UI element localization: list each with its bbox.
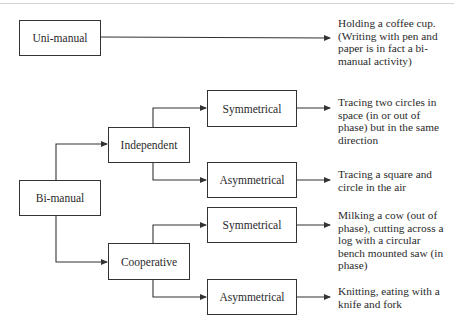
node-label: Cooperative bbox=[121, 256, 177, 268]
node-label: Symmetrical bbox=[223, 103, 282, 115]
node-independent-symmetrical: Symmetrical bbox=[207, 90, 297, 127]
node-cooperative-symmetrical: Symmetrical bbox=[207, 207, 297, 243]
node-bi-manual: Bi-manual bbox=[19, 180, 101, 216]
example-independent-symmetrical: Tracing two circles in space (in or out … bbox=[338, 96, 450, 146]
node-independent: Independent bbox=[108, 127, 190, 163]
node-label: Uni-manual bbox=[33, 32, 88, 44]
example-independent-asymmetrical: Tracing a square and circle in the air bbox=[338, 168, 450, 193]
node-label: Bi-manual bbox=[36, 192, 85, 204]
example-cooperative-asymmetrical: Knitting, eating with a knife and fork bbox=[338, 285, 450, 310]
node-independent-asymmetrical: Asymmetrical bbox=[207, 162, 297, 198]
node-cooperative: Cooperative bbox=[108, 243, 190, 280]
node-label: Asymmetrical bbox=[219, 174, 284, 186]
node-label: Symmetrical bbox=[223, 219, 282, 231]
node-uni-manual: Uni-manual bbox=[19, 20, 101, 56]
example-cooperative-symmetrical: Milking a cow (out of phase), cutting ac… bbox=[338, 209, 446, 272]
example-uni-manual: Holding a coffee cup. (Writing with pen … bbox=[338, 17, 446, 67]
node-label: Asymmetrical bbox=[219, 291, 284, 303]
node-cooperative-asymmetrical: Asymmetrical bbox=[207, 279, 297, 315]
node-label: Independent bbox=[121, 139, 178, 151]
